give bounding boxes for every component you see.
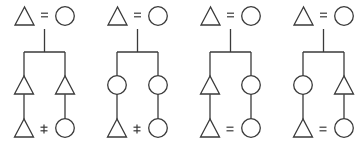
female-circle-icon [335,119,354,138]
male-triangle-icon [201,119,220,137]
marriage-equals-icon [227,13,234,17]
marriage-equals-icon [134,13,141,17]
male-triangle-icon [294,119,313,137]
male-triangle-icon [108,119,127,137]
male-triangle-icon [15,119,34,137]
male-triangle-icon [108,7,127,25]
female-circle-icon [149,76,168,95]
kinship-diagram-1 [15,7,75,138]
male-triangle-icon [294,7,313,25]
female-circle-icon [149,119,168,138]
female-circle-icon [56,119,75,138]
female-circle-icon [108,76,127,95]
male-triangle-icon [201,76,220,94]
kinship-diagrams-svg [0,0,360,157]
male-triangle-icon [15,7,34,25]
marriage-equals-icon [320,13,327,17]
kinship-diagram-2 [108,7,168,138]
kinship-diagram-panel [0,0,360,157]
marriage-not-equal-icon [41,125,48,134]
female-circle-icon [242,76,261,95]
male-triangle-icon [15,76,34,94]
female-circle-icon [242,7,261,26]
female-circle-icon [335,7,354,26]
female-circle-icon [56,7,75,26]
male-triangle-icon [201,7,220,25]
kinship-diagram-3 [201,7,261,138]
female-circle-icon [242,119,261,138]
female-circle-icon [149,7,168,26]
male-triangle-icon [335,76,354,94]
male-triangle-icon [56,76,75,94]
kinship-diagram-4 [294,7,354,138]
marriage-equals-icon [320,127,327,131]
marriage-not-equal-icon [134,125,141,134]
marriage-equals-icon [227,127,234,131]
marriage-equals-icon [41,13,48,17]
female-circle-icon [294,76,313,95]
